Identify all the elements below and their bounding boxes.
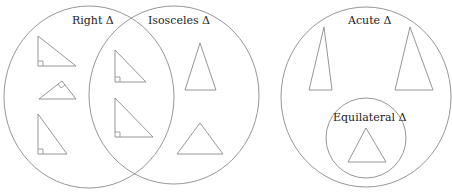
acute-triangle-2 xyxy=(395,27,433,90)
right-triangle-2-rotated xyxy=(39,81,76,99)
equilateral-triangle xyxy=(348,128,386,162)
isosceles-triangle-2 xyxy=(177,123,223,154)
right-triangle-3 xyxy=(38,114,67,154)
equilateral-set-label: Equilateral Δ xyxy=(333,111,407,124)
acute-triangle-1 xyxy=(309,27,332,90)
equilateral-set-circle xyxy=(326,98,406,178)
right-set-label: Right Δ xyxy=(72,14,114,27)
isosceles-set-label: Isosceles Δ xyxy=(148,14,210,27)
right-triangle-1 xyxy=(38,36,76,66)
right-isosceles-triangle-1 xyxy=(115,50,146,82)
venn-diagram: Right Δ Isosceles Δ Acute Δ Equilateral … xyxy=(0,0,452,193)
acute-set-label: Acute Δ xyxy=(347,14,392,27)
right-isosceles-triangle-2 xyxy=(115,98,153,137)
acute-set-circle xyxy=(281,7,451,187)
isosceles-triangle-1 xyxy=(185,43,216,90)
